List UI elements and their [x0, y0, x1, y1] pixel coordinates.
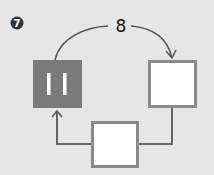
connector-right-to-bottom — [139, 108, 172, 144]
arc-right — [131, 26, 172, 58]
node-bottom — [93, 123, 138, 167]
node-right — [150, 62, 196, 107]
svg-text:7: 7 — [14, 18, 21, 29]
edge-label: 8 — [116, 16, 127, 36]
arc-left — [55, 26, 108, 60]
node-pause — [33, 60, 82, 108]
step-badge: 7 — [11, 17, 24, 30]
pause-icon-bar-right — [63, 73, 67, 95]
cycle-diagram: 7 8 — [0, 0, 214, 175]
pause-icon-bar-left — [47, 73, 51, 95]
